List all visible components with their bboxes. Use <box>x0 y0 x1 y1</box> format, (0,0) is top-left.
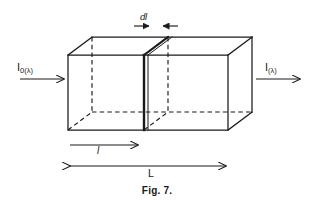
figure-caption: Fig. 7. <box>0 186 314 196</box>
box-visible-edges <box>68 37 252 130</box>
slab-thickness-l: l <box>145 11 147 22</box>
incident-intensity-label: I0(λ) <box>17 62 33 75</box>
path-length-short-label: l <box>97 146 99 156</box>
slab-thickness-label: dl <box>140 12 147 22</box>
absorption-box-diagram <box>0 0 314 206</box>
incident-intensity-subscript: 0(λ) <box>20 66 33 75</box>
box-hidden-edges <box>68 37 252 130</box>
figure-container: dl I0(λ) I(λ) l L Fig. 7. <box>0 0 314 206</box>
path-length-total-label: L <box>148 168 154 179</box>
transmitted-intensity-label: I(λ) <box>265 62 277 75</box>
transmitted-intensity-subscript: (λ) <box>268 66 277 75</box>
